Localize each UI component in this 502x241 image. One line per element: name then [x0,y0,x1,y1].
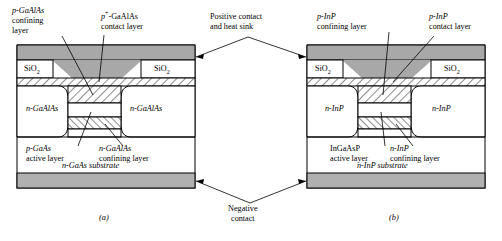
label-a-confining-line1: p-GaAlAs [12,6,44,16]
label-b-sio2-right: SiO2 [444,64,460,73]
label-negative-contact-line1: Negative [228,204,258,214]
label-a-nconfining-line1: n-GaAlAs [99,144,131,154]
label-b-nconfining-line1: n-InP [390,144,409,154]
label-a-active-line2: active layer [26,154,64,164]
label-b-block-left: n-InP [325,104,344,113]
caption-a: (a) [99,213,109,222]
label-a-confining-line2: confining [12,16,43,26]
label-a-active-line1: p-GaAs [26,144,51,154]
label-a-block-right: n-GaAlAs [130,104,162,113]
label-positive-contact-line1: Positive contact [210,12,262,22]
label-b-active-line1: InGaAsP [330,144,360,154]
label-b-substrate: n-InP substrate [357,161,408,170]
label-b-sio2-left: SiO2 [315,64,331,73]
label-a-confining-line3: layer [12,26,28,36]
caption-b: (b) [389,213,399,222]
label-b-contact-line1: p-InP [429,12,448,22]
label-b-confining-line2: confining layer [317,22,367,32]
figure-canvas: p-GaAlAs confining layer p+-GaAlAs conta… [0,0,502,241]
label-a-contact-line1: p+-GaAlAs [101,12,138,22]
label-a-contact-line2: contact layer [101,22,143,32]
label-b-contact-line2: contact layer [429,22,471,32]
label-a-sio2-right: SiO2 [154,64,170,73]
label-negative-contact-line2: contact [231,214,255,224]
label-a-sio2-left: SiO2 [24,64,40,73]
label-a-block-left: n-GaAlAs [26,104,58,113]
label-a-substrate: n-GaAs substrate [62,161,119,170]
label-b-confining-line1: p-InP [317,12,336,22]
label-positive-contact-line2: and heat sink [210,22,253,32]
label-b-block-right: n-InP [432,104,451,113]
leader-arrowheads [196,54,306,184]
